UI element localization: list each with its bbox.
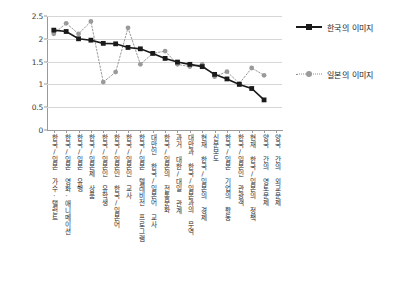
legend-item-korea: 한국의 이미지: [296, 20, 392, 34]
data-point: [200, 64, 205, 69]
x-axis-label: 한국/일본의 전통문화: [162, 134, 169, 213]
data-point: [89, 38, 94, 43]
x-tick-mark: [215, 130, 216, 133]
data-point: [64, 29, 69, 34]
data-point: [89, 19, 94, 24]
y-tick-label: 2: [38, 34, 43, 43]
legend-item-japan: 일본의 이미지: [296, 67, 392, 81]
x-axis-labels: 한국/일본 가수·탤런트한국/일본 영화·애니메이션한국/일본 유행한국/일본제…: [47, 134, 283, 274]
x-tick-mark: [116, 130, 117, 133]
x-tick-mark: [239, 130, 240, 133]
legend-marker-japan-icon: [296, 69, 322, 79]
data-point: [101, 80, 106, 85]
x-tick-mark: [202, 130, 203, 133]
data-point: [237, 82, 242, 87]
x-tick-mark: [190, 130, 191, 133]
x-axis-label: 한국/일본 기업의 활동: [223, 134, 230, 221]
data-point: [225, 69, 230, 74]
data-point: [249, 86, 254, 91]
data-point: [163, 49, 168, 54]
y-tick-label: 0.5: [32, 103, 43, 112]
x-tick-mark: [264, 130, 265, 133]
y-tick-label: 1.5: [32, 57, 43, 66]
data-point: [150, 51, 155, 56]
data-point: [138, 46, 143, 51]
x-tick-mark: [103, 130, 104, 133]
data-point: [51, 28, 56, 33]
x-axis-label: 과거 대한/대일 관계: [174, 134, 181, 214]
data-point: [138, 62, 143, 67]
series-line-japan: [54, 21, 264, 83]
x-tick-mark: [128, 130, 129, 133]
data-point: [126, 45, 131, 50]
x-axis-label: 한국/일본 영화·애니메이션: [63, 134, 70, 235]
x-tick-mark: [79, 130, 80, 133]
data-point: [163, 56, 168, 61]
x-axis-label: 현재 한국/일본의 정책: [248, 134, 255, 221]
x-axis-label: 한국/일본 유행: [75, 134, 82, 192]
data-point: [64, 21, 69, 26]
x-axis-label: 한국/일본인 유학생: [100, 134, 107, 206]
x-tick-mark: [91, 130, 92, 133]
data-point: [175, 60, 180, 65]
x-axis-label: 한국/일본인 관광객: [236, 134, 243, 206]
x-axis-label: 대만인 한국/일본어 교사: [149, 134, 156, 228]
x-axis-label: 현재 한국/일본의 경제: [199, 134, 206, 221]
data-point: [212, 72, 217, 77]
x-tick-mark: [66, 130, 67, 133]
x-axis-label: 한국/일본 가수·탤런트: [50, 134, 57, 221]
x-tick-mark: [276, 130, 277, 133]
legend-label-korea: 한국의 이미지: [327, 22, 374, 33]
y-tick-label: 0: [38, 126, 43, 135]
x-axis-label: 양국 간의 외교문제: [273, 134, 280, 206]
x-tick-mark: [140, 130, 141, 133]
data-point: [76, 31, 81, 36]
x-tick-mark: [252, 130, 253, 133]
legend-marker-korea-icon: [296, 22, 322, 32]
data-point: [249, 66, 254, 71]
chart-legend: 한국의 이미지 일본의 이미지: [296, 20, 392, 81]
data-point: [225, 77, 230, 82]
x-axis-label: 양국 간의 영토문제: [261, 134, 268, 206]
x-axis-label: 한국/일본인 한국/일본어: [112, 134, 119, 228]
x-tick-mark: [153, 130, 154, 133]
x-axis-label: 한국/일본 텔레비전 프로그램: [137, 134, 144, 242]
y-tick-label: 2.5: [32, 12, 43, 21]
x-tick-mark: [54, 130, 55, 133]
data-point: [262, 98, 267, 103]
series-plot: [47, 16, 282, 130]
data-point: [113, 41, 118, 46]
series-line-korea: [54, 30, 264, 100]
x-tick-mark: [165, 130, 166, 133]
x-axis-label: 신문보도: [211, 134, 218, 162]
legend-label-japan: 일본의 이미지: [327, 69, 374, 80]
data-point: [113, 70, 118, 75]
x-axis-label: 한국/일본인 교사: [125, 134, 132, 199]
data-point: [187, 62, 192, 67]
line-chart: 00.511.522.5 한국/일본 가수·탤런트한국/일본 영화·애니메이션한…: [0, 0, 393, 282]
data-point: [126, 25, 131, 30]
x-tick-mark: [227, 130, 228, 133]
x-axis-label: 한국/일본제 상품: [87, 134, 94, 199]
plot-area: 00.511.522.5: [47, 16, 282, 130]
data-point: [101, 41, 106, 46]
x-tick-mark: [177, 130, 178, 133]
data-point: [262, 73, 267, 78]
data-point: [76, 36, 81, 41]
y-tick-label: 1: [38, 80, 43, 89]
x-axis-label: 대만과 한국/일본과의 무역: [186, 134, 193, 235]
